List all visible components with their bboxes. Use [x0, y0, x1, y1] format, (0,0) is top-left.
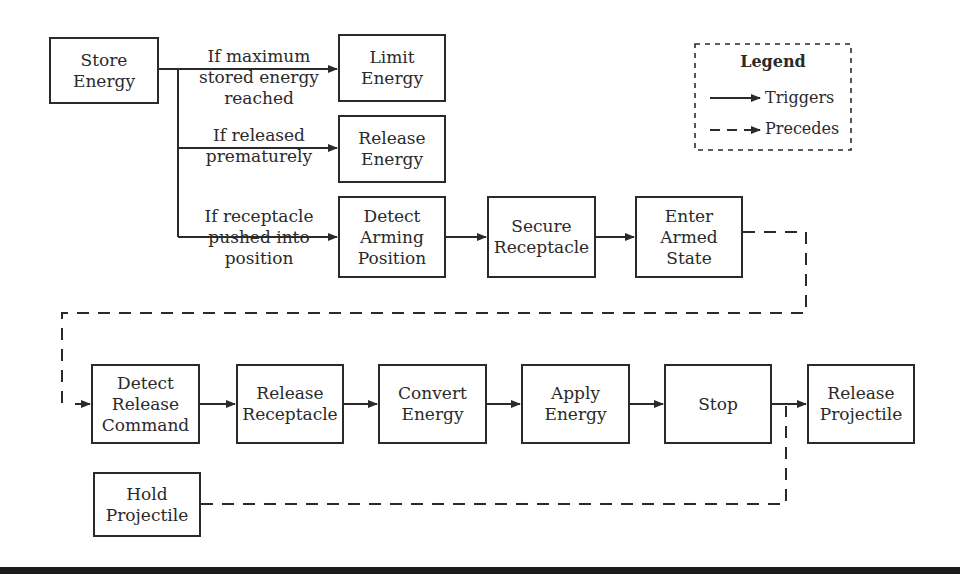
node-enter-armed-state: Enter Armed State	[635, 196, 743, 278]
node-secure-receptacle: Secure Receptacle	[487, 196, 596, 278]
bottom-border-bar	[0, 567, 960, 574]
node-release-energy: Release Energy	[338, 115, 446, 183]
legend: Legend Triggers Precedes	[695, 44, 851, 150]
legend-title: Legend	[695, 52, 851, 71]
node-detect-arming-position: Detect Arming Position	[338, 196, 446, 278]
node-hold-projectile: Hold Projectile	[93, 472, 201, 537]
node-release-projectile: Release Projectile	[807, 364, 915, 444]
edge-label-if-premature: If released prematurely	[186, 125, 332, 167]
node-apply-energy: Apply Energy	[521, 364, 630, 444]
node-stop: Stop	[664, 364, 772, 444]
node-limit-energy: Limit Energy	[338, 34, 446, 102]
node-detect-release-command: Detect Release Command	[91, 364, 200, 444]
edge-label-if-receptacle: If receptacle pushed into position	[186, 206, 332, 269]
node-convert-energy: Convert Energy	[378, 364, 487, 444]
legend-item-precedes: Precedes	[765, 119, 839, 138]
legend-item-triggers: Triggers	[765, 88, 834, 107]
node-store-energy: Store Energy	[49, 37, 159, 104]
node-release-receptacle: Release Receptacle	[236, 364, 344, 444]
edge-label-if-maximum: If maximum stored energy reached	[186, 46, 332, 109]
